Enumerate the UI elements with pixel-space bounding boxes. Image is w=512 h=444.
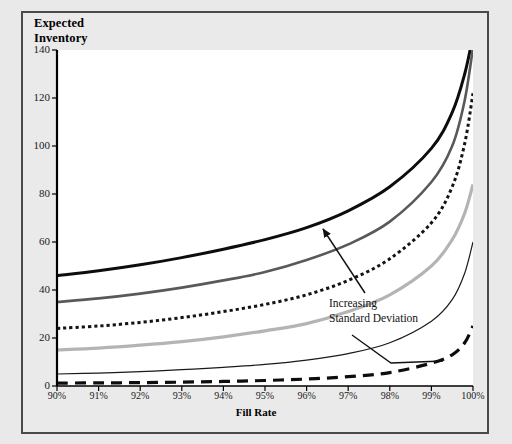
annotation-leader-down [352,335,443,363]
annotation-arrow-up [323,229,365,293]
figure-canvas: Expected Inventory 020406080100120140 90… [0,0,512,444]
annotation-leader-lines [0,0,512,444]
